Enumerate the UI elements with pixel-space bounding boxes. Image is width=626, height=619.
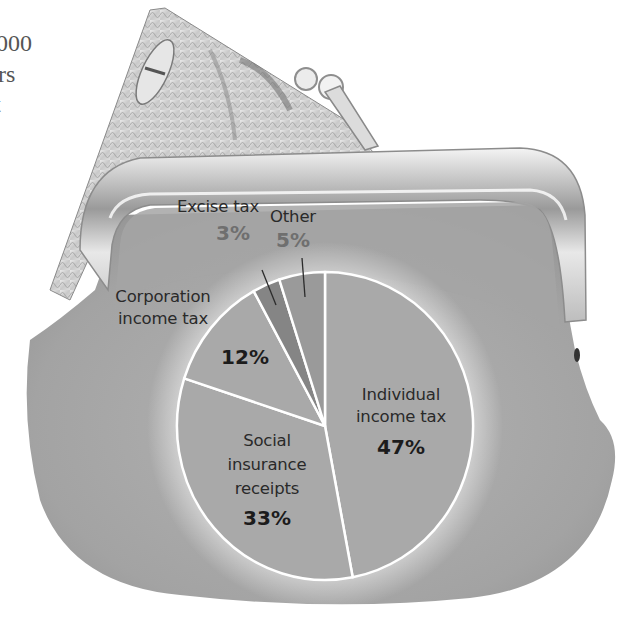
purse-stitch-mark bbox=[574, 348, 580, 362]
pct-social-insurance-receipts: 33% bbox=[232, 507, 302, 529]
label-individual-income-tax-line1: Individual bbox=[343, 384, 459, 405]
label-social-insurance-line1: Social bbox=[212, 430, 322, 451]
label-excise-tax: Excise tax bbox=[172, 196, 264, 217]
pct-corporation-income-tax: 12% bbox=[210, 346, 280, 368]
label-corporation-income-tax-line1: Corporation bbox=[106, 286, 220, 307]
label-other: Other bbox=[263, 206, 323, 227]
pct-excise-tax: 3% bbox=[205, 222, 261, 244]
label-individual-income-tax-line2: income tax bbox=[343, 406, 459, 427]
pct-individual-income-tax: 47% bbox=[366, 436, 436, 458]
pct-other: 5% bbox=[263, 229, 323, 251]
purse-illustration bbox=[0, 0, 626, 619]
label-corporation-income-tax-line2: income tax bbox=[106, 308, 220, 329]
label-social-insurance-line2: insurance bbox=[212, 454, 322, 475]
label-social-insurance-line3: receipts bbox=[212, 478, 322, 499]
tax-receipts-purse-chart: 000 rs t bbox=[0, 0, 626, 619]
